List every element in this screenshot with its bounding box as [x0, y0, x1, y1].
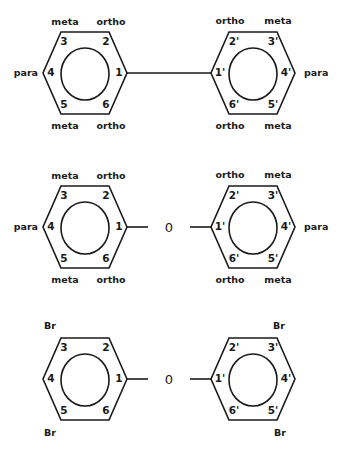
meta-position-label-3: meta — [51, 16, 78, 27]
bromine-substituent-3: Br — [44, 320, 56, 331]
position-number-6: 6 — [102, 98, 109, 110]
para-position-label-4: para — [14, 221, 38, 232]
aromatic-circle — [61, 354, 109, 406]
meta-position-label-5: meta — [51, 274, 78, 285]
ortho-position-label-2: ortho — [96, 16, 126, 27]
oxygen-bridge-label: 0 — [165, 220, 173, 235]
position-number-6: 6' — [229, 404, 240, 416]
position-number-1: 1' — [215, 372, 226, 384]
bromine-substituent-5: Br — [274, 427, 286, 438]
position-number-6: 6' — [229, 252, 240, 264]
ortho-position-label-2: ortho — [215, 169, 245, 180]
para-position-label-4: para — [304, 221, 328, 232]
ortho-position-label-2: ortho — [215, 15, 245, 26]
position-number-5: 5 — [60, 404, 67, 416]
meta-position-label-5: meta — [264, 120, 291, 131]
position-number-4: 4' — [281, 66, 292, 78]
position-number-2: 2 — [102, 189, 109, 201]
left-benzene-ring: 123456orthometaparametaortho — [14, 170, 127, 285]
aromatic-circle — [229, 202, 277, 254]
position-number-1: 1 — [115, 220, 122, 232]
position-number-4: 4' — [281, 220, 292, 232]
bromine-substituent-3: Br — [273, 320, 285, 331]
position-number-6: 6' — [229, 98, 240, 110]
meta-position-label-3: meta — [51, 170, 78, 181]
left-benzene-ring: 123456BrBr — [43, 320, 127, 438]
ortho-position-label-6: ortho — [215, 120, 245, 131]
position-number-2: 2' — [229, 341, 240, 353]
position-number-5: 5 — [60, 98, 67, 110]
position-number-1: 1 — [115, 372, 122, 384]
position-number-5: 5' — [268, 98, 279, 110]
para-position-label-4: para — [14, 67, 38, 78]
oxygen-bridge-label: 0 — [165, 372, 173, 387]
aromatic-circle — [229, 48, 277, 100]
right-benzene-ring: 1'2'3'4'5'6'orthometaparametaortho — [211, 169, 328, 285]
right-benzene-ring: 1'2'3'4'5'6'orthometaparametaortho — [211, 15, 328, 131]
position-number-4: 4 — [47, 66, 54, 78]
position-number-3: 3 — [60, 341, 67, 353]
tetrabromodiphenyl-ether-structure: 123456BrBr1'2'3'4'5'6'BrBr0 — [43, 320, 295, 438]
aromatic-circle — [61, 202, 109, 254]
position-number-2: 2' — [229, 35, 240, 47]
position-number-6: 6 — [102, 404, 109, 416]
right-benzene-ring: 1'2'3'4'5'6'BrBr — [211, 320, 295, 438]
diphenyl-ether-structure: 123456orthometaparametaortho1'2'3'4'5'6'… — [14, 169, 329, 285]
aromatic-circle — [61, 48, 109, 100]
position-number-6: 6 — [102, 252, 109, 264]
position-number-4: 4' — [281, 372, 292, 384]
position-number-1: 1 — [115, 66, 122, 78]
meta-position-label-3: meta — [264, 15, 291, 26]
bromine-substituent-5: Br — [44, 427, 56, 438]
position-number-3: 3 — [60, 35, 67, 47]
chemical-structure-diagram: 123456orthometaparametaortho1'2'3'4'5'6'… — [0, 0, 339, 451]
position-number-2: 2 — [102, 341, 109, 353]
ortho-position-label-6: ortho — [96, 274, 126, 285]
para-position-label-4: para — [304, 67, 328, 78]
position-number-4: 4 — [47, 372, 54, 384]
ortho-position-label-6: ortho — [96, 120, 126, 131]
meta-position-label-5: meta — [264, 274, 291, 285]
position-number-5: 5' — [268, 252, 279, 264]
meta-position-label-3: meta — [264, 169, 291, 180]
position-number-3: 3' — [268, 341, 279, 353]
meta-position-label-5: meta — [51, 120, 78, 131]
ortho-position-label-2: ortho — [96, 170, 126, 181]
position-number-5: 5 — [60, 252, 67, 264]
position-number-4: 4 — [47, 220, 54, 232]
biphenyl-structure: 123456orthometaparametaortho1'2'3'4'5'6'… — [14, 15, 329, 131]
aromatic-circle — [229, 354, 277, 406]
position-number-3: 3' — [268, 189, 279, 201]
position-number-2: 2' — [229, 189, 240, 201]
position-number-1: 1' — [215, 66, 226, 78]
position-number-1: 1' — [215, 220, 226, 232]
position-number-2: 2 — [102, 35, 109, 47]
position-number-3: 3' — [268, 35, 279, 47]
left-benzene-ring: 123456orthometaparametaortho — [14, 16, 127, 131]
ortho-position-label-6: ortho — [215, 274, 245, 285]
position-number-3: 3 — [60, 189, 67, 201]
position-number-5: 5' — [268, 404, 279, 416]
